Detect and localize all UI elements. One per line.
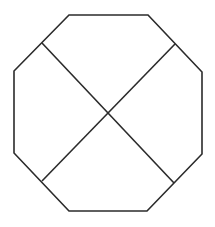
octagon-diagram [0, 0, 215, 227]
diagram-canvas [0, 0, 215, 227]
